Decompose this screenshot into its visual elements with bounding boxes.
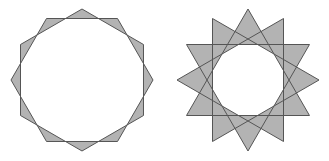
dodecagram-two-hexagons [11,9,153,151]
diagram-canvas [0,0,329,161]
inner-region [213,45,284,116]
inner-region [21,19,144,142]
dodecagram-four-triangles [177,9,319,151]
